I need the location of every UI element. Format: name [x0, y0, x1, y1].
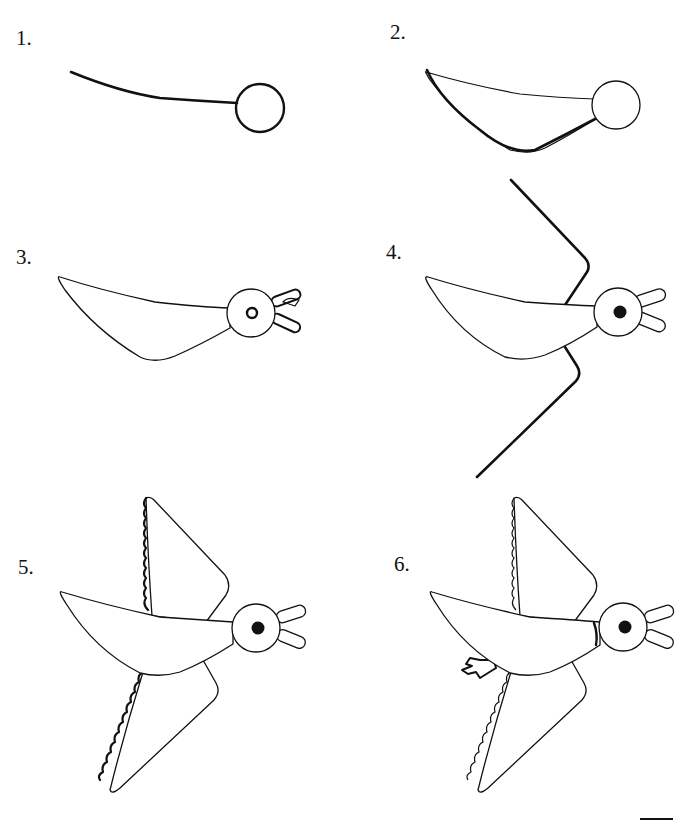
- beak-upper: [270, 288, 302, 308]
- step-5-drawing: [60, 497, 307, 792]
- beak-upper: [275, 604, 307, 625]
- lower-wing: [478, 660, 586, 792]
- lower-wing: [110, 660, 218, 792]
- back-line: [71, 72, 237, 103]
- beak-lower: [643, 628, 675, 650]
- eye-pupil: [252, 622, 265, 635]
- step-4-drawing: [426, 180, 667, 477]
- head-circle: [236, 84, 284, 132]
- eye-pupil: [619, 621, 632, 634]
- body-shape: [58, 277, 230, 361]
- eye-pupil: [614, 306, 627, 319]
- step-2-drawing: [426, 70, 641, 152]
- head-circle: [227, 289, 275, 337]
- step-3-drawing: [58, 277, 301, 361]
- body-shape: [426, 277, 597, 359]
- body-shape: [426, 72, 598, 152]
- tutorial-drawings: [0, 0, 686, 821]
- step-1-drawing: [71, 72, 284, 132]
- step-6-drawing: [430, 497, 675, 792]
- upper-wing: [146, 497, 229, 622]
- upper-wing-guide: [511, 180, 589, 305]
- upper-wing: [514, 497, 597, 622]
- beak-upper: [643, 604, 675, 625]
- lower-wing-guide: [477, 347, 579, 477]
- head-circle: [592, 81, 640, 129]
- corner-line: [640, 818, 673, 820]
